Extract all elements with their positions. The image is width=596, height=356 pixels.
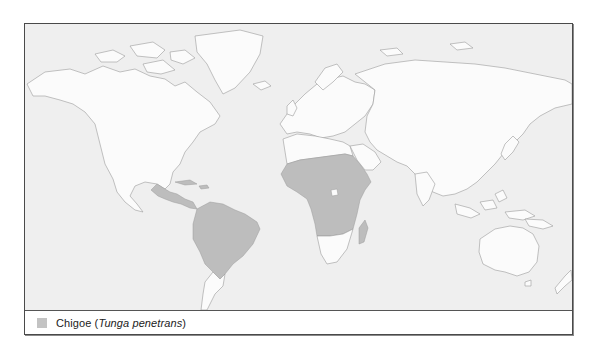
legend-label: Chigoe (Tunga penetrans) [56, 317, 186, 329]
north-america [27, 66, 220, 212]
endemic-madagascar [359, 220, 368, 244]
greenland [195, 30, 263, 94]
world-map [25, 24, 572, 311]
world-map-svg [25, 24, 572, 310]
legend-swatch-chigoe [37, 318, 47, 328]
endemic-africa [281, 154, 371, 236]
asia [355, 60, 572, 196]
endemic-south-america [193, 202, 260, 279]
legend-scientific-name: Tunga penetrans [98, 317, 182, 329]
legend-common-name: Chigoe [56, 317, 91, 329]
map-figure: Chigoe (Tunga penetrans) [24, 23, 573, 335]
legend: Chigoe (Tunga penetrans) [25, 311, 572, 334]
endemic-central-america [151, 184, 197, 209]
australia [479, 226, 539, 276]
